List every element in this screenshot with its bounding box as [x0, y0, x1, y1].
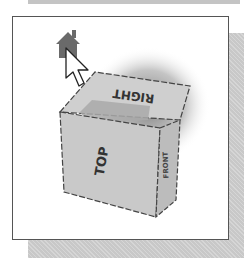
- cube-face-top[interactable]: [60, 112, 160, 217]
- face-label-front: FRONT: [162, 151, 171, 178]
- viewcube-illustration: RIGHT TOP FRONT: [0, 0, 248, 261]
- view-cube[interactable]: RIGHT TOP FRONT: [60, 72, 190, 217]
